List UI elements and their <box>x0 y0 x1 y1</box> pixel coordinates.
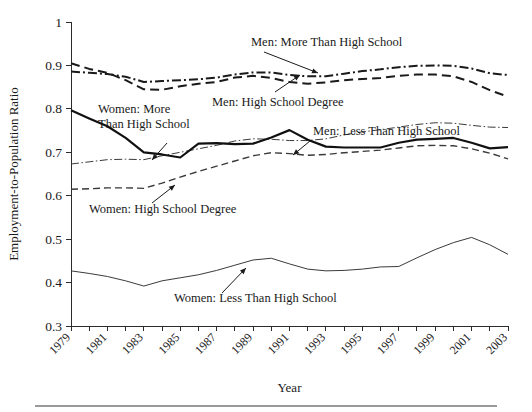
annotation-line: Women: High School Degree <box>89 202 237 216</box>
annotation-arrowhead <box>311 68 318 73</box>
y-tick-label: 0.9 <box>45 58 62 73</box>
series-line-men-more-than-high-school <box>71 65 508 82</box>
x-tick-label: 1991 <box>265 330 292 357</box>
annotation-line: Men: Less Than High School <box>313 124 461 138</box>
x-tick-label: 1997 <box>374 330 401 357</box>
x-tick-label: 1985 <box>156 330 183 357</box>
x-tick-label: 1999 <box>410 330 437 357</box>
x-tick-label: 1989 <box>228 330 255 357</box>
annotation-label: Men: Less Than High School <box>313 124 461 138</box>
annotation-men-more-than-high-school: Men: More Than High School <box>251 35 403 73</box>
figure-container: 10.90.80.70.60.50.40.3 19791981198319851… <box>0 0 532 412</box>
employment-ratio-line-chart: 10.90.80.70.60.50.40.3 19791981198319851… <box>0 0 532 412</box>
annotation-label: Women: Less Than High School <box>174 291 337 305</box>
x-tick-label: 1981 <box>83 330 110 357</box>
series-line-women-high-school-degree <box>71 145 508 189</box>
x-tick-label: 2003 <box>483 330 510 357</box>
y-axis-ticks: 10.90.80.70.60.50.40.3 <box>45 15 71 334</box>
annotation-label: Women: MoreThan High School <box>98 102 190 131</box>
y-tick-label: 0.8 <box>45 101 62 116</box>
series-line-women-less-than-high-school <box>71 237 508 286</box>
x-tick-label: 1993 <box>301 330 328 357</box>
annotation-line: Men: More Than High School <box>251 35 403 49</box>
annotation-line: Than High School <box>98 117 190 131</box>
y-tick-label: 1 <box>55 15 62 30</box>
y-tick-label: 0.5 <box>45 232 62 247</box>
y-tick-label: 0.3 <box>45 319 62 334</box>
x-tick-label: 2001 <box>447 330 474 357</box>
annotation-label: Women: High School Degree <box>89 202 237 216</box>
x-tick-label: 1983 <box>119 330 146 357</box>
x-axis-title: Year <box>278 380 303 395</box>
y-tick-label: 0.7 <box>45 145 62 160</box>
annotation-women-high-school-degree: Women: High School Degree <box>89 185 237 216</box>
annotation-arrowhead <box>169 185 175 191</box>
y-tick-label: 0.6 <box>45 188 62 203</box>
x-tick-label: 1995 <box>338 330 365 357</box>
annotation-line: Men: High School Degree <box>212 95 344 109</box>
x-tick-label: 1987 <box>192 330 219 357</box>
annotation-line: Women: Less Than High School <box>174 291 337 305</box>
annotation-label: Men: More Than High School <box>251 35 403 49</box>
series-line-men-high-school-degree <box>71 63 508 96</box>
x-axis-ticks: 1979198119831985198719891991199319951997… <box>46 326 510 357</box>
annotation-women-less-than-high-school: Women: Less Than High School <box>174 268 337 305</box>
plot-axes <box>71 22 508 326</box>
x-tick-label: 1979 <box>46 330 73 357</box>
annotation-line: Women: More <box>98 102 171 116</box>
annotation-label: Men: High School Degree <box>212 95 344 109</box>
annotation-leader-line <box>264 52 318 73</box>
y-tick-label: 0.4 <box>45 275 62 290</box>
y-axis-title: Employment-to-Population Ratio <box>6 87 21 261</box>
